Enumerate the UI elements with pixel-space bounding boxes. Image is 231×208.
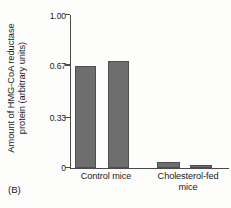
bar-cholesterol-fed-mice-2	[190, 165, 212, 168]
bar-control-mice-2	[108, 61, 129, 168]
x-axis-category-labels: Control mice Cholesterol-fed mice	[70, 171, 231, 205]
y-tick-label-0.33: 0.33	[38, 113, 66, 123]
x-label-cholesterol-fed-mice: Cholesterol-fed mice	[148, 171, 228, 193]
y-tick-mark-0	[65, 167, 70, 168]
y-tick-label-0.67: 0.67	[38, 61, 66, 71]
y-axis-title-line-1: Amount of HMG-CoA reductase	[6, 23, 17, 152]
y-axis-tick-labels: 1.00 0.67 0.33 0	[36, 0, 66, 208]
x-axis-line	[70, 168, 229, 169]
bar-control-mice-1	[75, 66, 96, 169]
y-tick-mark-0.33	[65, 117, 70, 118]
bar-cholesterol-fed-mice-1	[157, 162, 180, 168]
y-tick-label-1.00: 1.00	[38, 11, 66, 21]
panel-label: (B)	[8, 184, 21, 195]
y-tick-mark-0.67	[65, 64, 70, 65]
x-label-control-mice: Control mice	[70, 171, 142, 182]
y-tick-mark-1.00	[65, 14, 70, 15]
y-axis-line	[70, 15, 71, 168]
plot-area	[70, 15, 229, 168]
y-axis-title-line-2: protein (arbitrary units)	[17, 23, 28, 152]
y-axis-title: Amount of HMG-CoA reductase protein (arb…	[0, 0, 34, 176]
y-tick-label-0: 0	[38, 163, 66, 173]
figure-panel-b: Amount of HMG-CoA reductase protein (arb…	[0, 0, 231, 208]
